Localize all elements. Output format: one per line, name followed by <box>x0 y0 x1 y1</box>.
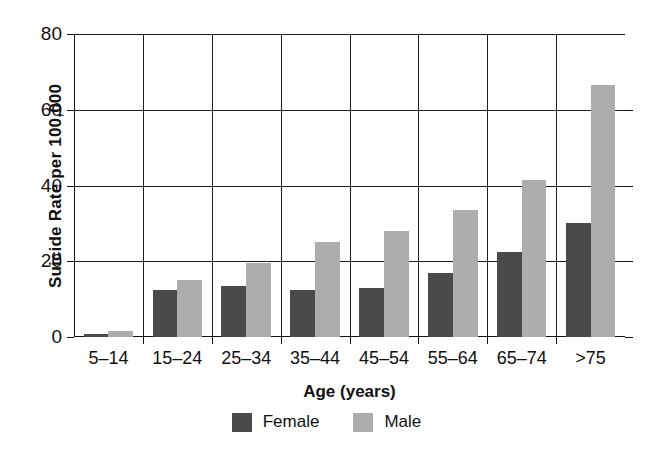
y-axis-tick-right <box>625 110 633 111</box>
x-axis-tick <box>143 337 144 344</box>
chart-legend: FemaleMale <box>0 412 653 432</box>
bar-female-0 <box>84 334 109 337</box>
bar-male-2 <box>246 263 271 337</box>
bar-female-5 <box>428 273 453 337</box>
x-axis-tick-label: 25–34 <box>221 348 271 369</box>
y-axis-tick <box>67 110 74 111</box>
gridline-vertical <box>418 34 419 337</box>
x-axis-tick <box>487 337 488 344</box>
legend-label: Female <box>263 412 320 432</box>
legend-label: Male <box>384 412 421 432</box>
y-axis-tick <box>67 34 74 35</box>
x-axis-tick-label: 65–74 <box>497 348 547 369</box>
legend-swatch-icon <box>232 413 252 432</box>
bar-male-4 <box>384 231 409 337</box>
x-axis-tick <box>350 337 351 344</box>
x-axis-tick <box>418 337 419 344</box>
x-axis-tick-label: 45–54 <box>359 348 409 369</box>
bar-male-7 <box>591 85 616 337</box>
x-axis-tick-label: >75 <box>575 348 606 369</box>
gridline-vertical <box>281 34 282 337</box>
legend-swatch-icon <box>353 413 373 432</box>
y-axis-tick-right <box>625 261 633 262</box>
bar-male-6 <box>522 180 547 337</box>
gridline-vertical <box>143 34 144 337</box>
x-axis-tick <box>281 337 282 344</box>
y-axis-tick-label: 0 <box>51 326 62 348</box>
y-axis-tick-label: 20 <box>41 250 62 272</box>
x-axis-tick-label: 15–24 <box>152 348 202 369</box>
gridline-vertical <box>212 34 213 337</box>
gridline-vertical <box>350 34 351 337</box>
legend-item: Female <box>232 412 320 432</box>
y-axis-tick-label: 60 <box>41 99 62 121</box>
legend-item: Male <box>353 412 421 432</box>
x-axis-tick-label: 35–44 <box>290 348 340 369</box>
gridline-vertical <box>487 34 488 337</box>
bar-chart: Suicide Rate per 100,000 0204060805–1415… <box>0 0 653 452</box>
bar-female-6 <box>497 252 522 337</box>
x-axis-tick-label: 55–64 <box>428 348 478 369</box>
plot-area: 0204060805–1415–2425–3435–4445–5455–6465… <box>74 34 625 337</box>
bar-male-3 <box>315 242 340 337</box>
y-axis-tick-right <box>625 337 633 338</box>
bar-female-2 <box>221 286 246 337</box>
y-axis-tick <box>67 186 74 187</box>
y-axis-tick-label: 80 <box>41 23 62 45</box>
bar-female-4 <box>359 288 384 337</box>
bar-female-7 <box>566 223 591 337</box>
y-axis-tick-label: 40 <box>41 175 62 197</box>
x-axis-tick <box>556 337 557 344</box>
y-axis-tick-right <box>625 186 633 187</box>
bar-female-3 <box>290 290 315 337</box>
x-axis-title: Age (years) <box>74 382 625 402</box>
x-axis-tick <box>212 337 213 344</box>
gridline-vertical <box>556 34 557 337</box>
y-axis-tick <box>67 337 74 338</box>
x-axis-tick-label: 5–14 <box>88 348 128 369</box>
y-axis-tick <box>67 261 74 262</box>
bar-male-0 <box>108 331 133 337</box>
bar-male-5 <box>453 210 478 337</box>
bar-male-1 <box>177 280 202 337</box>
bar-female-1 <box>153 290 178 337</box>
